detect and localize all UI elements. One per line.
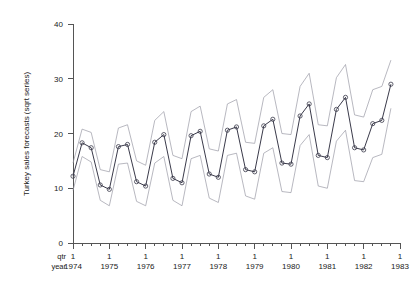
x-tick-label-year: 1976 [137,262,155,271]
x-tick-label-quarter: 1 [252,252,257,261]
y-tick-label: 20 [54,130,63,139]
x-tick-label-quarter: 1 [71,252,76,261]
x-tick-label-year: 1980 [282,262,300,271]
x-tick-label-quarter: 1 [107,252,112,261]
x-tick-label-year: 1982 [355,262,373,271]
y-axis: 010203040 Turkey sales forecasts (sqrt s… [22,20,73,248]
y-tick-label: 40 [54,20,63,29]
y-axis-title: Turkey sales forecasts (sqrt series) [22,72,31,197]
x-tick-label-year: 1983 [391,262,409,271]
x-tick-label-quarter: 1 [325,252,330,261]
x-tick-label-year: 1978 [209,262,227,271]
x-tick-label-quarter: 1 [398,252,403,261]
x-axis-ticks [73,243,400,249]
x-tick-label-quarter: 1 [289,252,294,261]
x-axis-quarter-row-label: qtr [57,252,66,261]
y-tick-label: 0 [59,239,64,248]
x-tick-label-year: 1981 [318,262,336,271]
series-line-upper [73,60,391,172]
x-tick-label-quarter: 1 [143,252,148,261]
data-series-group [73,60,391,206]
x-axis: 1197411975119761197711978119791198011981… [51,243,409,271]
y-tick-label: 30 [54,75,63,84]
chart-container: 010203040 Turkey sales forecasts (sqrt s… [0,0,420,289]
x-axis-year-row-label: year [51,262,66,271]
y-axis-ticks: 010203040 [54,20,73,248]
x-tick-label-quarter: 1 [361,252,366,261]
x-axis-labels: 1197411975119761197711978119791198011981… [64,252,409,271]
x-tick-label-year: 1977 [173,262,191,271]
x-tick-label-year: 1979 [246,262,264,271]
x-tick-label-year: 1975 [100,262,118,271]
x-tick-label-quarter: 1 [216,252,221,261]
y-tick-label: 10 [54,184,63,193]
x-tick-label-year: 1974 [64,262,82,271]
x-tick-label-quarter: 1 [180,252,185,261]
turkey-sales-forecast-chart: 010203040 Turkey sales forecasts (sqrt s… [0,0,420,289]
series-line-lower [73,108,391,205]
series-line-center [73,84,391,189]
